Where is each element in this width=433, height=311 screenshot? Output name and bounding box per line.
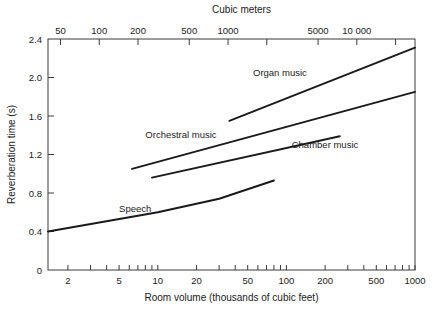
left-axis-tick-labels: 00.40.81.21.62.02.4 (29, 34, 42, 276)
top-axis-title: Cubic meters (212, 4, 271, 15)
x-tick-label-10: 10 (153, 275, 164, 286)
y-tick-label-2.0: 2.0 (29, 72, 42, 83)
top-tick-label-500: 500 (181, 25, 197, 36)
series-label-organ-music: Organ music (253, 67, 307, 78)
x-tick-label-200: 200 (317, 275, 333, 286)
y-tick-label-2.4: 2.4 (29, 34, 42, 45)
top-axis-ticks (60, 39, 395, 45)
bottom-axis-tick-labels: 251020501002005001000 (65, 275, 425, 286)
series-line-organ-music (229, 48, 415, 121)
top-tick-label-100: 100 (91, 25, 107, 36)
plot-frame (48, 39, 415, 270)
x-axis-title: Room volume (thousands of cubic feet) (145, 292, 319, 303)
series-line-speech (48, 180, 274, 231)
reverberation-time-chart: 501002005001000500010 000 25102050100200… (0, 0, 433, 311)
x-tick-label-20: 20 (191, 275, 202, 286)
top-tick-label-200: 200 (130, 25, 146, 36)
top-tick-label-1000: 1000 (217, 25, 238, 36)
x-tick-label-100: 100 (278, 275, 294, 286)
top-tick-label-10000: 10 000 (342, 25, 371, 36)
y-axis-title: Reverberation time (s) (6, 105, 17, 204)
x-tick-label-50: 50 (242, 275, 253, 286)
left-axis-ticks (48, 78, 54, 232)
x-tick-label-5: 5 (116, 275, 121, 286)
series-label-chamber-music: Chamber music (292, 139, 359, 150)
y-tick-label-1.2: 1.2 (29, 149, 42, 160)
plot-border (48, 39, 415, 270)
top-tick-label-50: 50 (55, 25, 66, 36)
x-tick-label-500: 500 (368, 275, 384, 286)
y-tick-label-0.4: 0.4 (29, 226, 42, 237)
y-tick-label-1.6: 1.6 (29, 111, 42, 122)
series-curves (48, 48, 415, 232)
top-tick-label-5000: 5000 (307, 25, 328, 36)
y-tick-label-0.8: 0.8 (29, 188, 42, 199)
bottom-axis-ticks (68, 265, 415, 270)
series-label-orchestral-music: Orchestral music (145, 129, 217, 140)
x-tick-label-2: 2 (65, 275, 70, 286)
top-axis-tick-labels: 501002005001000500010 000 (55, 25, 371, 36)
x-tick-label-1000: 1000 (404, 275, 425, 286)
series-label-speech: Speech (119, 203, 151, 214)
chart-canvas: 501002005001000500010 000 25102050100200… (0, 0, 433, 311)
y-tick-label-0: 0 (37, 265, 42, 276)
